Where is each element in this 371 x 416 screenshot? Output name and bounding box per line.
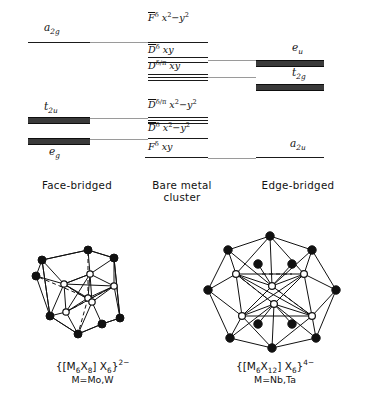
level-label-left-0: a2g <box>44 22 60 36</box>
edge-bridged-cluster-drawing <box>200 228 350 353</box>
level-label-center-3: Dδ/π x2−y2 <box>148 99 197 111</box>
energy-level-center-5 <box>145 157 208 158</box>
energy-level-left-0 <box>28 42 90 43</box>
level-label-right-0: eu <box>292 42 303 56</box>
connector-line <box>90 118 148 119</box>
caption-line-1: Face-bridged <box>42 179 112 191</box>
face-bridged-cluster-drawing <box>28 238 158 348</box>
m6x8-cluster-svg <box>28 238 158 348</box>
m6x12-cluster-svg <box>200 228 350 353</box>
connector-line <box>90 42 148 43</box>
energy-level-right-0 <box>256 60 324 67</box>
edge-bridged-metal-note: M=Nb,Ta <box>196 374 354 385</box>
caption-line-1: Bare metal <box>152 179 212 191</box>
level-label-right-2: a2u <box>290 138 306 152</box>
connector-line <box>208 77 256 78</box>
caption-line-2: cluster <box>163 191 200 203</box>
connector-line <box>208 158 256 159</box>
connector-line <box>90 139 148 140</box>
energy-level-right-1 <box>256 84 324 91</box>
energy-level-left-2 <box>28 138 90 145</box>
level-label-center-0: Fδ x2−y2 <box>148 12 189 24</box>
level-label-left-2: eg <box>49 146 60 160</box>
level-label-center-2: Dδ/π xy <box>148 60 180 71</box>
connector-line <box>208 60 256 61</box>
level-label-right-1: t2g <box>292 67 306 81</box>
caption-line-1: Edge-bridged <box>262 179 335 191</box>
figure-root: a2g t2u eg Fδ x2−y2 Dδ xy Dδ/π xy Dδ/π x… <box>0 0 371 416</box>
level-label-left-1: t2u <box>44 101 58 115</box>
level-label-center-4: Dδ x2−y2 <box>148 122 190 134</box>
level-label-center-5: Fδ xy <box>148 141 173 152</box>
mo-correlation-diagram: a2g t2u eg Fδ x2−y2 Dδ xy Dδ/π xy Dδ/π x… <box>0 0 371 200</box>
energy-level-left-1 <box>28 117 90 124</box>
face-bridged-metal-note: M=Mo,W <box>20 374 165 385</box>
column-caption-edge-bridged: Edge-bridged <box>240 180 356 192</box>
energy-level-center-2 <box>148 74 208 81</box>
column-caption-face-bridged: Face-bridged <box>22 180 132 192</box>
column-caption-bare-metal: Bare metal cluster <box>130 180 234 203</box>
energy-level-right-2 <box>256 157 324 158</box>
level-label-center-1: Dδ xy <box>148 44 174 56</box>
